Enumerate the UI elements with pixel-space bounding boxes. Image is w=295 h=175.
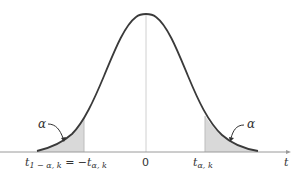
density-curve — [37, 14, 258, 151]
left-alpha-arrow-icon — [48, 124, 63, 138]
zero-tick-label: 0 — [142, 156, 149, 169]
t-distribution-diagram: α α t1 − α, k = −tα, k 0 tα, k t — [0, 0, 295, 175]
axis-label-t: t — [284, 156, 289, 169]
axis-arrow-icon — [286, 150, 291, 154]
right-alpha-arrow-icon — [231, 125, 244, 138]
left-critical-value-label: t1 − α, k = −tα, k — [25, 156, 107, 170]
right-alpha-label: α — [247, 117, 255, 131]
left-alpha-label: α — [38, 117, 46, 131]
right-critical-value-label: tα, k — [193, 156, 213, 170]
